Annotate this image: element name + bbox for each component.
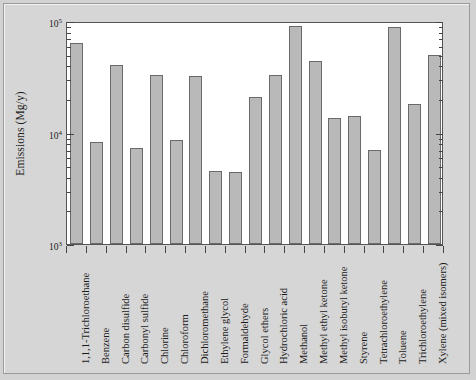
x-axis-tick-label: Styrene — [358, 332, 369, 364]
bar — [289, 26, 302, 244]
x-axis-tick — [165, 246, 166, 253]
y-axis-minor-tick — [67, 66, 71, 67]
x-axis-tick-label: Formaldehyde — [239, 303, 250, 364]
bar — [70, 43, 83, 244]
y-axis-minor-tick — [439, 27, 443, 28]
bar — [90, 142, 103, 244]
y-axis-minor-tick — [439, 33, 443, 34]
x-axis-tick-label: Trichloroethylene — [417, 289, 428, 364]
x-axis-tick — [126, 246, 127, 253]
y-axis-minor-tick — [67, 178, 71, 179]
bar — [110, 65, 123, 244]
bar — [249, 97, 262, 244]
x-axis-tick-label: Carbonyl sulfide — [139, 294, 150, 364]
x-axis-tick-label: Methanol — [298, 324, 309, 364]
x-axis-tick — [106, 246, 107, 253]
x-axis-tick-label: Methyl ethyl ketone — [318, 279, 329, 364]
y-axis-major-tick — [67, 22, 74, 23]
y-axis-minor-tick — [439, 66, 443, 67]
bar — [408, 104, 421, 244]
x-axis-tick — [383, 246, 384, 253]
y-axis-minor-tick — [67, 47, 71, 48]
bar — [309, 61, 322, 244]
y-axis-minor-tick — [439, 100, 443, 101]
y-axis-tick-label: 105 — [28, 17, 62, 29]
y-axis-minor-tick — [439, 56, 443, 57]
x-axis-tick — [86, 246, 87, 253]
bar — [209, 171, 222, 244]
y-axis-minor-tick — [439, 39, 443, 40]
y-axis-minor-tick — [439, 167, 443, 168]
x-axis-tick — [225, 246, 226, 253]
bar — [388, 27, 401, 244]
y-axis-minor-tick — [439, 178, 443, 179]
y-axis-minor-tick — [439, 47, 443, 48]
y-axis-minor-tick — [67, 192, 71, 193]
y-axis-minor-tick — [67, 27, 71, 28]
bar — [229, 172, 242, 244]
x-axis-tick — [324, 246, 325, 253]
y-axis-major-tick — [436, 134, 443, 135]
x-axis-tick — [403, 246, 404, 253]
y-axis-major-tick — [436, 245, 443, 246]
y-axis-minor-tick — [67, 158, 71, 159]
y-axis-minor-tick — [439, 211, 443, 212]
x-axis-tick-label: 1,1,1-Trichloroethane — [80, 273, 91, 364]
x-axis-tick — [66, 246, 67, 253]
bar — [130, 148, 143, 244]
y-axis-minor-tick — [67, 139, 71, 140]
y-axis-major-tick — [67, 134, 74, 135]
bar — [189, 76, 202, 244]
y-axis-minor-tick — [67, 100, 71, 101]
bar — [328, 118, 341, 244]
y-axis-major-tick — [436, 22, 443, 23]
y-axis-tick-labels: 105104103 — [26, 0, 62, 380]
y-axis-tick-label: 103 — [28, 240, 62, 252]
x-axis-tick-label: Dichloromethane — [199, 291, 210, 364]
x-axis-tick — [185, 246, 186, 253]
x-axis-tick-label: Xylene (mixed isomers) — [437, 263, 448, 364]
x-axis-tick — [145, 246, 146, 253]
figure-canvas: Emissions (Mg/y) 105104103 1,1,1-Trichlo… — [0, 0, 476, 380]
x-axis-tick-label: Toluene — [397, 330, 408, 364]
x-axis-tick-label: Methyl isobutyl ketone — [338, 267, 349, 364]
y-axis-minor-tick — [67, 80, 71, 81]
x-axis-tick-label: Benzene — [100, 328, 111, 364]
y-axis-minor-tick — [439, 144, 443, 145]
x-axis-tick — [205, 246, 206, 253]
x-axis-tick — [284, 246, 285, 253]
x-axis-tick — [344, 246, 345, 253]
x-axis-tick — [304, 246, 305, 253]
x-axis-tick-label: Tetrachloroethylene — [378, 280, 389, 364]
y-axis-minor-tick — [67, 167, 71, 168]
y-axis-minor-tick — [67, 33, 71, 34]
y-axis-minor-tick — [67, 211, 71, 212]
bar — [348, 116, 361, 244]
y-axis-minor-tick — [439, 80, 443, 81]
y-axis-minor-tick — [439, 192, 443, 193]
bar-series — [67, 23, 442, 244]
y-axis-minor-tick — [67, 56, 71, 57]
bar — [170, 140, 183, 244]
bar — [269, 75, 282, 244]
x-axis-tick-label: Hydrochloric acid — [278, 288, 289, 364]
x-axis-tick — [245, 246, 246, 253]
x-axis-tick — [264, 246, 265, 253]
y-axis-minor-tick — [439, 139, 443, 140]
y-axis-minor-tick — [67, 151, 71, 152]
y-axis-minor-tick — [67, 39, 71, 40]
plot-area — [66, 22, 443, 245]
x-axis-tick-label: Glycol ethers — [259, 308, 270, 364]
x-axis-tick — [364, 246, 365, 253]
x-axis-tick-label: Carbon disulfide — [120, 294, 131, 364]
x-axis-tick-label: Chlorine — [159, 327, 170, 364]
y-axis-minor-tick — [67, 144, 71, 145]
x-axis-tick-label: Ethylene glycol — [219, 298, 230, 364]
bar — [368, 150, 381, 244]
x-axis-tick — [423, 246, 424, 253]
y-axis-minor-tick — [439, 151, 443, 152]
bar — [150, 75, 163, 244]
y-axis-major-tick — [67, 245, 74, 246]
bar — [428, 55, 441, 244]
y-axis-tick-label: 104 — [28, 129, 62, 141]
